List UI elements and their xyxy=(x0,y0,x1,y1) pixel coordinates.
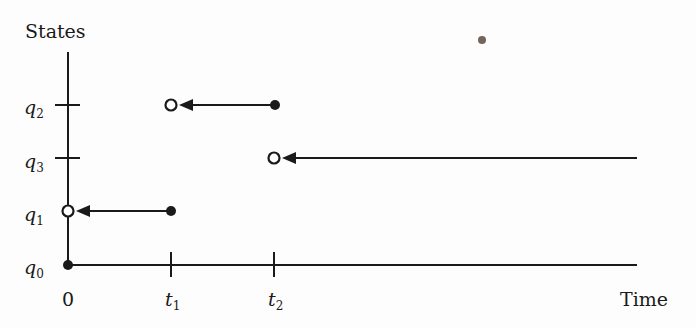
x-axis-label: Time xyxy=(620,290,668,309)
y-tick-label-q1: q1 xyxy=(24,205,44,227)
x-tick-label-t1: t1 xyxy=(165,290,180,312)
x-tick-label-t2: t2 xyxy=(268,290,283,312)
segment-q1 xyxy=(63,205,177,217)
x-tick-label-0: 0 xyxy=(62,290,74,309)
q0-start-point xyxy=(63,260,73,270)
y-tick-label-q0: q0 xyxy=(24,258,44,280)
segment-q2 xyxy=(166,99,281,111)
y-tick-label-q2: q2 xyxy=(24,98,44,120)
y-tick-label-q3: q3 xyxy=(24,152,44,174)
state-time-diagram xyxy=(0,0,696,328)
ink-smudge xyxy=(478,36,486,44)
segment-q3 xyxy=(269,152,638,164)
y-axis-label: States xyxy=(25,22,86,41)
